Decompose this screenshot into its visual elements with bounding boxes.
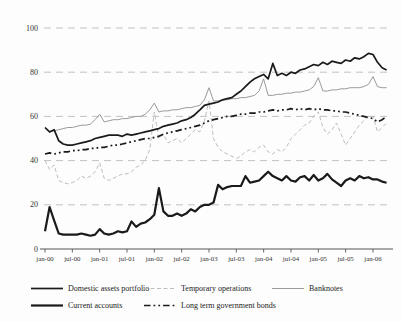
x-axis-tick-label: jul-01 [118,255,135,262]
x-axis-tick-label: jan-02 [145,255,164,262]
y-axis-tick-label: 80 [30,68,38,77]
line-chart-plot: 020406080100jan-00jul-00jan-01jul-01jan-… [0,0,402,279]
legend: Domestic assets portfolioTemporary opera… [0,279,402,322]
y-axis-tick-label: 20 [30,200,38,209]
legend-item-temporary-operations: Temporary operations [143,284,251,293]
legend-line-sample [143,284,177,293]
y-axis-tick-label: 60 [30,112,38,121]
legend-line-sample [30,284,64,293]
x-axis-tick-label: jul-05 [337,255,355,262]
x-axis-tick-label: jul-03 [227,255,245,262]
x-axis-tick-label: jul-04 [282,255,300,262]
legend-item-current-accounts: Current accounts [30,301,122,310]
legend-label: Current accounts [68,301,122,310]
series-line-domestic-assets-portfolio [45,53,387,145]
legend-item-long-term-government-bonds: Long term government bonds [143,301,276,310]
x-axis-tick-label: jan-06 [363,255,382,262]
x-axis-tick-label: jan-00 [35,255,54,262]
legend-item-banknotes: Banknotes [271,284,343,293]
series-line-current-accounts [45,172,387,236]
legend-line-sample [271,284,305,293]
legend-label: Domestic assets portfolio [68,284,149,293]
legend-item-domestic-assets-portfolio: Domestic assets portfolio [30,284,149,293]
legend-label: Temporary operations [181,284,251,293]
x-axis-tick-label: jan-01 [90,255,108,262]
y-axis-tick-label: 100 [26,24,38,33]
x-axis-tick-label: jan-04 [254,255,273,262]
x-axis-tick-label: jan-03 [199,255,218,262]
chart-figure: 020406080100jan-00jul-00jan-01jul-01jan-… [0,0,402,322]
y-axis-tick-label: 40 [30,156,38,165]
series-line-temporary-operations [45,101,387,184]
legend-label: Banknotes [309,284,343,293]
x-axis-tick-label: jul-00 [63,255,81,262]
legend-label: Long term government bonds [181,301,276,310]
legend-line-sample [30,301,64,310]
series-line-banknotes [45,77,387,132]
x-axis-tick-label: jul-02 [173,255,191,262]
x-axis-tick-label: jan-05 [309,255,328,262]
series-line-long-term-government-bonds [45,109,387,154]
legend-line-sample [143,301,177,310]
y-axis-tick-label: 0 [34,245,38,254]
